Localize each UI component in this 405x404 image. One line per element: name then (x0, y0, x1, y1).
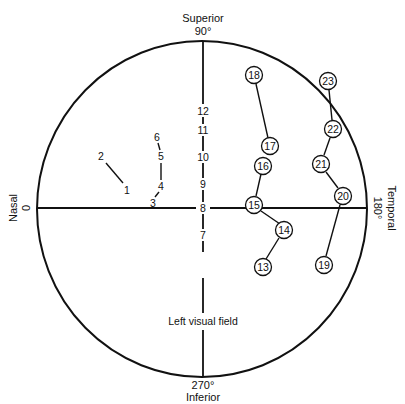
svg-text:13: 13 (257, 261, 269, 273)
svg-text:23: 23 (322, 75, 334, 87)
point-1: 1 (124, 184, 130, 196)
circled-point-18: 18 (246, 67, 263, 84)
point-9: 9 (200, 178, 206, 190)
circled-point-16: 16 (255, 158, 272, 175)
circled-point-22: 22 (325, 121, 342, 138)
svg-text:15: 15 (248, 199, 260, 211)
point-2: 2 (98, 150, 104, 162)
circled-point-23: 23 (320, 73, 337, 90)
connection-lines (106, 84, 340, 259)
point-6: 6 (154, 131, 160, 143)
svg-text:21: 21 (315, 158, 327, 170)
inferior-degree: 270° (192, 379, 215, 391)
circled-point-13: 13 (255, 259, 272, 276)
point-11: 11 (198, 124, 209, 136)
svg-text:17: 17 (264, 140, 276, 152)
circled-point-21: 21 (313, 156, 330, 173)
svg-text:14: 14 (278, 224, 290, 236)
temporal-label: Temporal (386, 185, 398, 230)
svg-text:19: 19 (318, 259, 330, 271)
point-7: 7 (200, 229, 206, 241)
nasal-label: Nasal (7, 194, 19, 222)
superior-degree: 90° (195, 25, 212, 37)
circled-point-17: 17 (262, 138, 279, 155)
svg-text:20: 20 (337, 190, 349, 202)
point-12: 12 (197, 105, 209, 117)
point-4: 4 (158, 180, 164, 192)
circled-point-14: 14 (276, 222, 293, 239)
circled-point-15: 15 (246, 197, 263, 214)
circled-point-20: 20 (335, 188, 352, 205)
field-title: Left visual field (168, 315, 238, 327)
point-3: 3 (150, 197, 156, 209)
visual-field-diagram: Superior 90° 270° Inferior Nasal 0 180° … (0, 0, 405, 404)
svg-text:18: 18 (248, 69, 260, 81)
point-10: 10 (197, 151, 209, 163)
point-5: 5 (158, 150, 164, 162)
temporal-degree: 180° (372, 197, 384, 220)
inferior-label: Inferior (186, 391, 221, 403)
svg-text:16: 16 (257, 160, 269, 172)
point-8: 8 (200, 202, 206, 214)
svg-text:22: 22 (327, 123, 339, 135)
nasal-degree: 0 (20, 205, 32, 211)
circled-point-19: 19 (316, 257, 333, 274)
circled-points: 13 14 15 16 17 18 19 20 (246, 67, 352, 276)
superior-label: Superior (182, 12, 224, 24)
